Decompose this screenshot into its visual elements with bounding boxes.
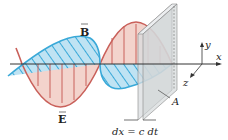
coordinate-axes — [192, 44, 202, 76]
dx-label: dx = c dt — [112, 126, 159, 137]
b-field-label: B — [80, 26, 89, 39]
em-wave-diagram: B E x y z A dx = c dt — [0, 0, 228, 140]
x-axis-arrow — [216, 62, 222, 66]
area-label: A — [171, 96, 179, 107]
e-field-label: E — [58, 113, 66, 126]
x-axis-label: x — [216, 51, 222, 62]
y-axis-arrow — [200, 42, 204, 47]
z-axis-label: z — [182, 77, 189, 88]
y-axis-label: y — [204, 39, 211, 50]
